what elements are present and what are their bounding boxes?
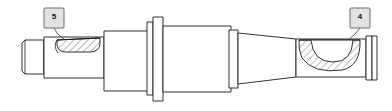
technical-drawing-canvas: 5 4 (0, 0, 392, 111)
balloon-4-box[interactable] (350, 8, 370, 28)
end-ring-inner (372, 36, 377, 80)
right-journal-shaft (238, 33, 296, 84)
callout-balloons-group (44, 8, 370, 28)
end-ring-outer (366, 36, 372, 80)
leader-line-4 (348, 28, 360, 40)
main-body (163, 26, 231, 92)
balloon-5-box[interactable] (44, 8, 64, 28)
part-drawing-svg (0, 0, 392, 111)
left-step-collar (104, 31, 150, 91)
flange-disc (153, 17, 163, 101)
right-shoulder-ring (229, 30, 238, 88)
flange-inner-ring (147, 22, 153, 95)
